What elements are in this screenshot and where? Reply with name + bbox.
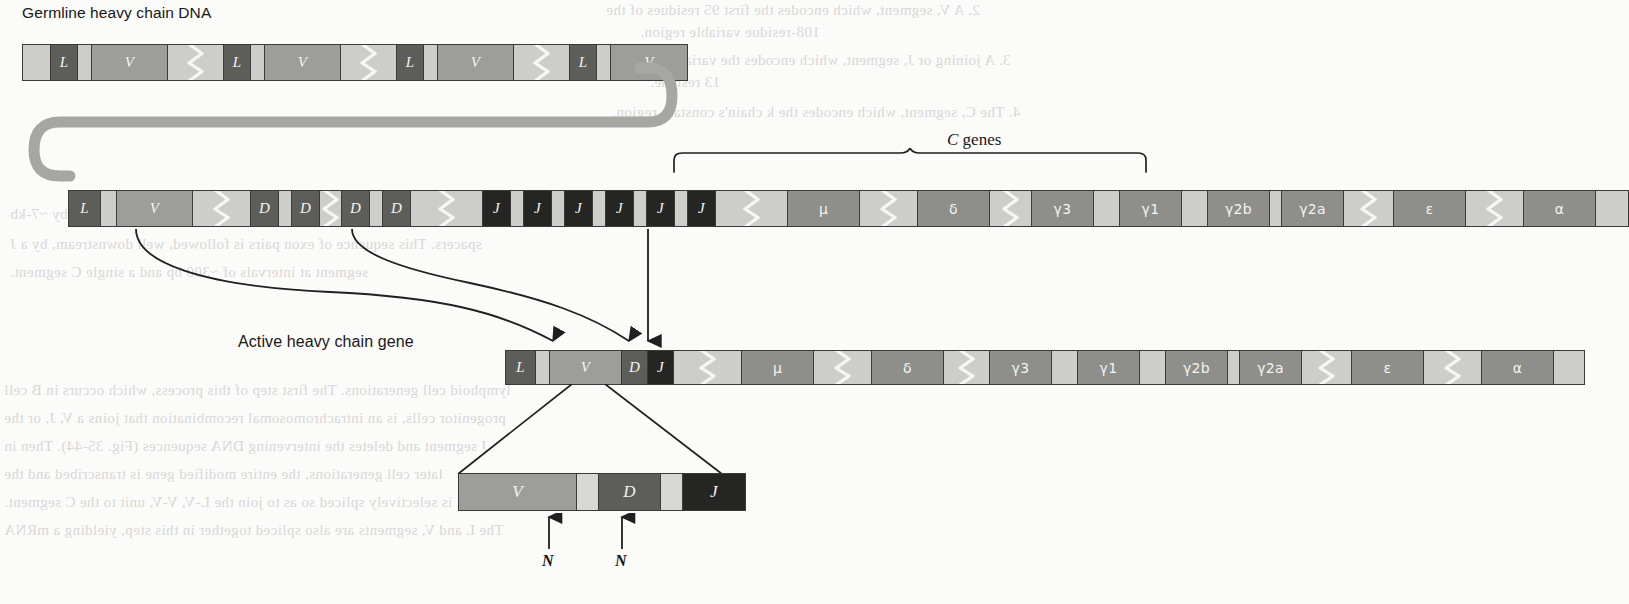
locus-segment-J: J — [483, 191, 511, 226]
n-region-label-right: N — [615, 552, 627, 570]
segment-label: μ — [819, 201, 828, 217]
segment-label: J — [616, 200, 623, 217]
locus-segment-3: γ3 — [1032, 191, 1094, 226]
locus-segment-spacer — [511, 191, 524, 226]
active-segment-spacer — [1554, 351, 1584, 384]
germline-segment-spacer — [514, 45, 570, 80]
ghost-text-line: segment at intervals of ~300 bp and a si… — [10, 264, 368, 281]
germline-segment-spacer — [251, 45, 265, 80]
segment-label: V — [298, 54, 307, 71]
c-genes-bracket — [670, 148, 1150, 174]
dna-break-zigzag-icon — [1484, 191, 1506, 226]
germline-segment-V: V — [438, 45, 514, 80]
dna-break-zigzag-icon — [741, 191, 763, 226]
locus-segment-spacer — [860, 191, 918, 226]
active-segment-spacer — [674, 351, 742, 384]
dna-break-zigzag-icon — [436, 191, 458, 226]
locus-segment-spacer — [411, 191, 483, 226]
locus-segment-1: γ1 — [1120, 191, 1182, 226]
segment-label: γ2a — [1257, 360, 1284, 376]
c-genes-label-rest: genes — [958, 130, 1001, 149]
active-segment-spacer — [1052, 351, 1078, 384]
ghost-text-line: 108-residue variable region. — [640, 24, 820, 41]
active-segment-2a: γ2a — [1240, 351, 1302, 384]
dna-break-zigzag-icon — [878, 191, 900, 226]
dna-break-zigzag-icon — [1316, 351, 1338, 384]
segment-label: D — [350, 200, 361, 217]
segment-label: V — [581, 359, 590, 376]
segment-label: V — [512, 482, 523, 502]
segment-label: L — [406, 54, 415, 71]
active-segment-V: V — [550, 351, 622, 384]
active-gene-label: Active heavy chain gene — [238, 333, 414, 351]
locus-segment-D: D — [251, 191, 279, 226]
locus-segment-spacer — [320, 191, 342, 226]
c-genes-label: C genes — [947, 130, 1001, 150]
active-segment-spacer — [1424, 351, 1482, 384]
ghost-text-line: transcript is selectively spliced so as … — [4, 494, 517, 511]
active-segment-spacer — [536, 351, 550, 384]
locus-segment-: μ — [788, 191, 860, 226]
segment-label: D — [629, 359, 640, 376]
locus-segment-D: D — [292, 191, 320, 226]
segment-label: L — [579, 54, 588, 71]
segment-label: L — [233, 54, 242, 71]
dna-break-zigzag-icon — [185, 45, 207, 80]
segment-label: γ2a — [1299, 201, 1326, 217]
segment-label: V — [150, 200, 159, 217]
locus-segment-spacer — [552, 191, 565, 226]
germline-segment-V: V — [265, 45, 341, 80]
locus-segment-spacer — [593, 191, 606, 226]
locus-segment-: α — [1524, 191, 1596, 226]
n-region-label-left: N — [542, 552, 554, 570]
locus-segment-J: J — [524, 191, 552, 226]
segment-label: D — [391, 200, 402, 217]
locus-segment-spacer — [990, 191, 1032, 226]
germline-segment-L: L — [397, 45, 424, 80]
locus-segment-J: J — [688, 191, 716, 226]
segment-label: ε — [1384, 360, 1392, 376]
ghost-text-line: later cell generations, the entire modif… — [4, 466, 443, 483]
dna-break-zigzag-icon — [697, 351, 719, 384]
c-genes-label-italic: C — [947, 130, 958, 149]
locus-segment-2a: γ2a — [1282, 191, 1344, 226]
segment-label: J — [710, 482, 718, 502]
segment-label: α — [1513, 360, 1523, 376]
dna-break-zigzag-icon — [1442, 351, 1464, 384]
locus-segment-spacer — [1466, 191, 1524, 226]
active-segment-1: γ1 — [1078, 351, 1140, 384]
locus-segment-L: L — [69, 191, 101, 226]
segment-label: J — [534, 200, 541, 217]
segment-label: L — [60, 54, 69, 71]
vdj-junction-detail-row: VDJ — [458, 473, 746, 511]
locus-segment-: δ — [918, 191, 990, 226]
active-segment-: δ — [872, 351, 944, 384]
n-region-arrows — [545, 513, 685, 551]
locus-segment-2b: γ2b — [1208, 191, 1270, 226]
segment-label: δ — [949, 201, 958, 217]
segment-label: J — [657, 359, 664, 376]
segment-label: γ1 — [1142, 201, 1160, 217]
ghost-text-line: progenitor cells, is an intrachromosomal… — [4, 410, 506, 427]
active-segment-spacer — [1302, 351, 1352, 384]
active-segment-: μ — [742, 351, 814, 384]
active-gene-row: LVDJμδγ3γ1γ2bγ2aεα — [505, 350, 1585, 385]
germline-segment-spacer — [23, 45, 51, 80]
dna-break-zigzag-icon — [358, 45, 380, 80]
ghost-text-line: J segment and deletes the intervening DN… — [4, 438, 487, 455]
locus-segment-J: J — [606, 191, 634, 226]
segment-label: V — [125, 54, 134, 71]
locus-segment-spacer — [370, 191, 383, 226]
segment-label: μ — [773, 360, 782, 376]
locus-segment-spacer — [1344, 191, 1394, 226]
ghost-text-line: 2. A V, segment, which encodes the first… — [606, 2, 980, 19]
detail-segment-V: V — [459, 474, 577, 510]
segment-label: γ2b — [1225, 201, 1252, 217]
dna-break-zigzag-icon — [531, 45, 553, 80]
active-segment-spacer — [814, 351, 872, 384]
locus-segment-spacer — [1270, 191, 1282, 226]
active-segment-spacer — [1228, 351, 1240, 384]
active-segment-spacer — [944, 351, 990, 384]
dna-break-zigzag-icon — [832, 351, 854, 384]
